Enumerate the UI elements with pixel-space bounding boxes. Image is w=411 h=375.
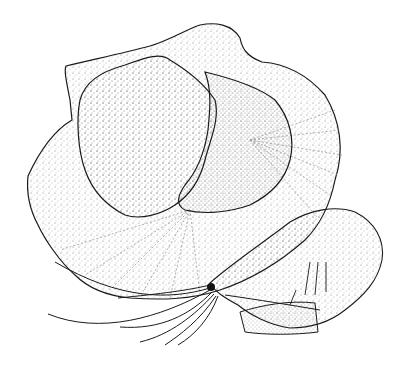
scallop-shrimp-illustration <box>0 0 411 375</box>
shrimp-eye <box>207 283 215 291</box>
illustration-canvas <box>0 0 411 375</box>
